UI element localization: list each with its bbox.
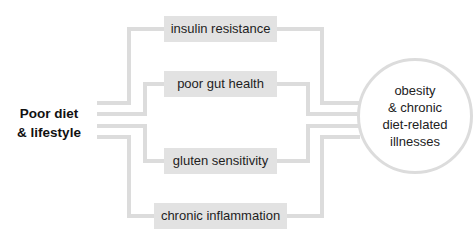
connector-insulin-left	[97, 29, 164, 103]
outcome-line-3: diet-related	[382, 116, 447, 133]
outcome-line-4: illnesses	[390, 133, 440, 150]
factor-chronic-inflammation: chronic inflammation	[154, 203, 287, 229]
outcome-line-2: & chronic	[388, 99, 442, 116]
source-label: Poor diet & lifestyle	[14, 104, 84, 142]
factor-poor-gut-health: poor gut health	[164, 71, 277, 97]
factor-insulin-resistance: insulin resistance	[164, 16, 277, 42]
connector-insulin-right	[277, 29, 359, 103]
connector-gut-right	[277, 84, 358, 114]
connector-gluten-right	[277, 126, 358, 161]
outcome-line-1: obesity	[394, 82, 435, 99]
source-line-2: & lifestyle	[14, 123, 84, 142]
source-line-1: Poor diet	[14, 104, 84, 123]
factor-gluten-sensitivity: gluten sensitivity	[164, 148, 277, 174]
connector-inflammation-right	[287, 137, 360, 216]
outcome-circle: obesity & chronic diet-related illnesses	[357, 58, 473, 174]
